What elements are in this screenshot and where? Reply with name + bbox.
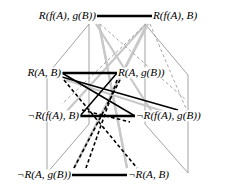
frame-vertical-edges <box>47 24 188 173</box>
node-label-n_br: ¬R(f(A), g(B)) <box>135 110 202 121</box>
edge-br-to-lr-slant <box>145 124 188 173</box>
edge-layer <box>0 0 236 196</box>
node-label-n_lr: ¬R(A, B) <box>127 169 170 180</box>
node-label-n_tr: R(f(A), B) <box>152 10 198 21</box>
frame-slant-edges <box>47 24 188 173</box>
cube-lattice-figure: R(f(A), g(B))R(f(A), B)R(A, B)R(A, g(B))… <box>0 0 236 196</box>
edge-ml-to-br-2 <box>62 77 178 110</box>
node-label-n_ll: ¬R(A, g(B)) <box>16 169 72 180</box>
node-label-n_ml: R(A, B) <box>26 67 62 78</box>
edge-mr-dash-down <box>86 80 117 168</box>
edge-lr-up-a <box>99 24 127 168</box>
node-label-n_bl: ¬R(f(A), B) <box>26 110 80 121</box>
node-label-n_tl: R(f(A), g(B)) <box>38 10 97 21</box>
light-diagonal-edges <box>66 24 178 168</box>
node-label-n_mr: R(A, g(B)) <box>117 67 166 78</box>
